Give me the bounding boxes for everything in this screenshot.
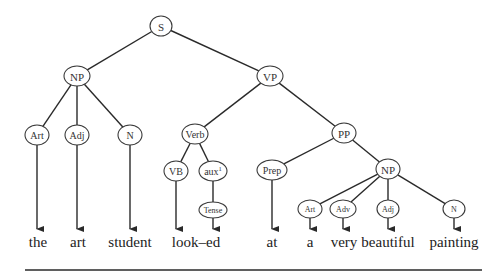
edge-np1-art1 <box>43 85 71 126</box>
word-beautiful: beautiful <box>361 234 414 250</box>
edge-s-vp <box>171 31 259 71</box>
node-vp: VP <box>257 66 283 86</box>
edge-pp-prep <box>284 138 334 164</box>
tree-nodes: SNPVPArtAdjNVerbPPVBaux1PrepNPTenseArtAd… <box>25 16 465 218</box>
node-art2: Art <box>298 200 322 218</box>
node-adj2: Adj <box>377 200 399 218</box>
node-n2: N <box>443 200 465 218</box>
node-label: NP <box>381 164 395 176</box>
node-label: Art <box>30 130 44 141</box>
node-label: Art <box>305 205 316 214</box>
word-at: at <box>267 234 279 250</box>
edge-vp-pp <box>279 83 335 126</box>
node-aux: aux1 <box>199 161 227 181</box>
node-pp: PP <box>332 123 356 143</box>
node-s: S <box>150 16 172 36</box>
edge-verb-vb <box>181 143 191 162</box>
node-label: N <box>451 205 457 214</box>
node-label: Adj <box>70 130 85 141</box>
node-label: NP <box>70 71 84 83</box>
edge-np2-art2 <box>320 174 378 204</box>
word-a: a <box>307 234 314 250</box>
edge-s-np1 <box>87 31 152 69</box>
node-vb: VB <box>164 161 188 181</box>
word-art: art <box>70 234 87 250</box>
word-very: very <box>331 234 358 250</box>
word-student: student <box>108 234 152 250</box>
node-label: Adj <box>382 205 394 214</box>
edge-pp-np2 <box>353 140 380 162</box>
node-np1: NP <box>64 66 90 86</box>
node-adv: Adv <box>330 200 356 218</box>
node-art1: Art <box>25 125 49 145</box>
node-label: Verb <box>186 129 205 140</box>
node-label: Prep <box>263 165 281 176</box>
word-looked: look–ed <box>172 234 221 250</box>
node-np2: NP <box>376 159 400 179</box>
node-tense: Tense <box>199 202 227 218</box>
edge-np1-n1 <box>84 84 122 127</box>
node-n1: N <box>118 125 142 145</box>
node-label: PP <box>338 128 350 140</box>
edge-verb-aux <box>200 143 209 161</box>
node-label: S <box>158 21 164 33</box>
node-verb: Verb <box>182 124 208 144</box>
word-the: the <box>29 234 48 250</box>
node-label: Tense <box>204 206 223 215</box>
node-label: Adv <box>336 205 350 214</box>
node-prep: Prep <box>257 160 287 180</box>
node-label: N <box>126 130 133 141</box>
word-painting: painting <box>429 234 479 250</box>
edge-np2-n2 <box>398 175 445 204</box>
edge-vp-verb <box>204 83 261 127</box>
node-label: VB <box>169 166 183 177</box>
node-label: VP <box>263 71 277 83</box>
node-adj1: Adj <box>65 125 89 145</box>
sentence-words: theartstudentlook–edataverybeautifulpain… <box>29 234 479 250</box>
syntax-tree-diagram: SNPVPArtAdjNVerbPPVBaux1PrepNPTenseArtAd… <box>0 0 500 276</box>
